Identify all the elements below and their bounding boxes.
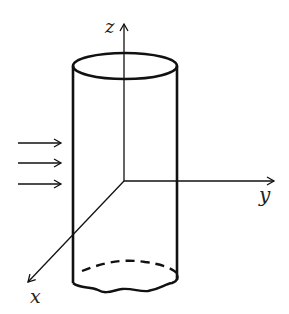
cylinder-hidden-back-edge (82, 261, 177, 273)
axes (28, 24, 274, 282)
cylinder (73, 53, 177, 292)
x-axis (28, 181, 124, 282)
x-axis-label: x (30, 285, 41, 307)
cylinder-wavy-bottom (73, 275, 177, 292)
diagram-canvas: z y x (0, 0, 289, 314)
y-axis-label: y (258, 183, 271, 207)
flow-arrows (18, 143, 61, 184)
z-axis-label: z (104, 16, 115, 37)
cylinder-top-ellipse (73, 53, 177, 79)
